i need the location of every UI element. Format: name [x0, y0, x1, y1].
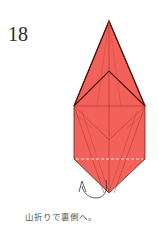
origami-diagram — [0, 0, 159, 243]
paper-shape — [74, 21, 145, 193]
arrow-head-icon — [79, 181, 86, 192]
instruction-caption: 山折りで裏側へ。 — [25, 210, 97, 222]
